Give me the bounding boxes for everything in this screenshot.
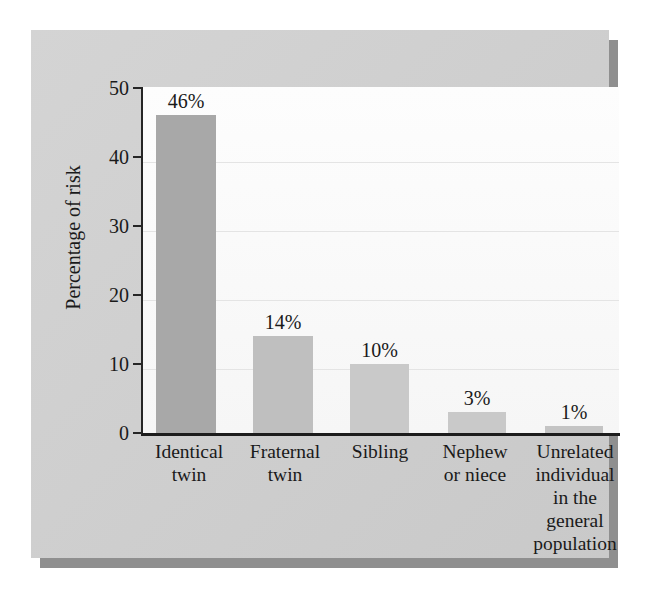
x-label-line: general	[523, 509, 627, 532]
bar-fraternal-twin	[253, 336, 313, 433]
y-tick-mark-0	[133, 432, 142, 434]
y-tick-label-50: 50	[109, 78, 129, 98]
x-label-line: Fraternal	[239, 440, 331, 463]
bar-unrelated	[545, 426, 603, 433]
bar-sibling	[350, 364, 409, 433]
x-label-line: Identical	[144, 440, 234, 463]
y-tick-mark-30	[133, 225, 142, 227]
y-tick-label-0: 0	[119, 423, 129, 443]
bar-label-nephew-or-niece: 3%	[448, 388, 506, 408]
bar-identical-twin	[156, 115, 216, 433]
x-label-line: twin	[144, 463, 234, 486]
y-tick-label-20: 20	[109, 285, 129, 305]
y-tick-label-40: 40	[109, 147, 129, 167]
y-tick-label-30: 30	[109, 216, 129, 236]
x-label-line: in the	[523, 486, 627, 509]
x-label-line: Nephew	[429, 440, 521, 463]
chart-panel: 46% 14% 10% 3% 1% 50 40 30 20 10 0	[31, 30, 609, 558]
bar-label-fraternal-twin: 14%	[253, 312, 313, 332]
y-axis-line	[141, 87, 143, 434]
x-label-nephew-or-niece: Nephew or niece	[429, 440, 521, 486]
y-axis-title: Percentage of risk	[62, 108, 85, 368]
plot-area	[142, 87, 619, 433]
x-label-identical-twin: Identical twin	[144, 440, 234, 486]
y-tick-mark-20	[133, 294, 142, 296]
x-label-fraternal-twin: Fraternal twin	[239, 440, 331, 486]
y-tick-mark-50	[133, 87, 142, 89]
y-tick-label-wrap-0: 0	[71, 423, 129, 443]
bar-label-identical-twin: 46%	[156, 91, 216, 111]
x-label-line: or niece	[429, 463, 521, 486]
x-label-line: Sibling	[337, 440, 423, 463]
x-label-unrelated-individual: Unrelated individual in the general popu…	[523, 440, 627, 555]
chart-screenshot: 46% 14% 10% 3% 1% 50 40 30 20 10 0	[0, 0, 656, 593]
y-tick-label-10: 10	[109, 354, 129, 374]
y-tick-mark-40	[133, 156, 142, 158]
y-tick-label-wrap-50: 50	[71, 78, 129, 98]
bar-nephew-or-niece	[448, 412, 506, 433]
x-label-line: individual	[523, 463, 627, 486]
x-label-line: twin	[239, 463, 331, 486]
x-label-sibling: Sibling	[337, 440, 423, 463]
y-tick-mark-10	[133, 363, 142, 365]
x-label-line: Unrelated	[523, 440, 627, 463]
bar-label-sibling: 10%	[350, 340, 409, 360]
bar-label-unrelated: 1%	[545, 402, 603, 422]
x-label-line: population	[523, 532, 627, 555]
x-axis-line	[141, 433, 620, 436]
